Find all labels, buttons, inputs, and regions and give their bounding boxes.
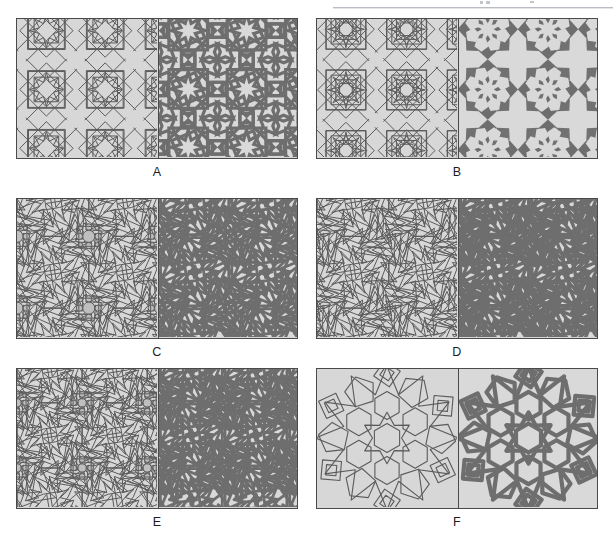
panel-b: B [316,18,598,183]
panel-b-frame [316,18,598,159]
pattern-figure: ABCDEF [0,0,613,544]
panel-c-strapwork-half [158,199,297,338]
panel-a: A [16,18,298,183]
panel-a-caption: A [16,165,298,179]
panel-b-caption: B [316,165,598,179]
panel-a-construction-half [17,19,157,158]
panel-d-construction-half [317,199,457,338]
panel-f-strapwork-half [458,369,597,508]
panel-b-strapwork-half [458,19,597,158]
panel-d-caption: D [316,345,598,359]
figure-page: ABCDEF [0,0,613,544]
panel-e-construction-half [17,369,157,508]
panel-c-construction-half [17,199,157,338]
panel-f: F [316,368,598,533]
panel-c-frame [16,198,298,339]
panel-d-strapwork-half [458,199,597,338]
panel-c-caption: C [16,345,298,359]
panel-a-frame [16,18,298,159]
panel-f-caption: F [316,515,598,529]
panel-a-strapwork-half [158,19,297,158]
panel-d: D [316,198,598,363]
panel-e-caption: E [16,515,298,529]
panel-e: E [16,368,298,533]
panel-d-frame [316,198,598,339]
panel-f-frame [316,368,598,509]
panel-f-construction-half [317,369,457,508]
panel-c: C [16,198,298,363]
panel-e-strapwork-half [158,369,297,508]
panel-b-construction-half [317,19,457,158]
panel-e-frame [16,368,298,509]
